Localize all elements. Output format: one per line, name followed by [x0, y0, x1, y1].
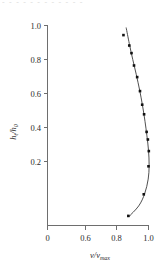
y-axis-title-den-sub: 0 — [13, 124, 19, 127]
x-axis-title-subscript: max — [100, 255, 110, 261]
y-tick-label-0.8: 0.8 — [30, 55, 41, 65]
y-tick-label-0.4: 0.4 — [30, 123, 41, 133]
data-point — [147, 138, 150, 141]
data-point — [122, 34, 125, 37]
axis-spines — [48, 25, 149, 226]
y-axis-title: ht/h0 — [8, 124, 19, 140]
data-point — [141, 103, 144, 106]
data-point — [145, 131, 148, 134]
velocity-profile-plot: 1.0 0.8 0.6 0.4 0.2 0 0.6 0.8 1.0 ht/h0 — [0, 0, 163, 270]
page-bleed-artifact: - - - - - - - - - - - - — [0, 0, 163, 7]
figure-canvas: - - - - - - - - - - - - 1.0 0.8 0.6 0.4 … — [0, 0, 163, 270]
svg-text:ht/h0: ht/h0 — [8, 124, 19, 140]
data-point — [130, 52, 133, 55]
x-axis-ticks — [48, 226, 149, 230]
bleed-text: - - - - - - - - - - - - — [2, 0, 84, 7]
x-axis-title: v/vmax — [90, 250, 110, 261]
data-point — [142, 193, 145, 196]
data-point — [127, 215, 130, 218]
y-axis-tick-labels: 1.0 0.8 0.6 0.4 0.2 — [30, 21, 41, 167]
data-point — [148, 150, 151, 153]
x-tick-label-0.6: 0.6 — [80, 233, 91, 243]
x-axis-tick-labels: 0 0.6 0.8 1.0 — [45, 233, 153, 243]
x-tick-label-0: 0 — [45, 233, 49, 243]
y-tick-label-0.2: 0.2 — [30, 157, 41, 167]
data-point — [139, 90, 142, 93]
y-tick-label-1.0: 1.0 — [30, 21, 41, 31]
y-axis-ticks — [44, 26, 48, 162]
x-tick-label-0.8: 0.8 — [111, 233, 122, 243]
x-tick-label-1.0: 1.0 — [143, 233, 154, 243]
data-point — [143, 113, 146, 116]
data-point — [133, 64, 136, 67]
fit-curve — [126, 28, 149, 218]
data-point — [147, 165, 150, 168]
data-point — [128, 44, 131, 47]
y-tick-label-0.6: 0.6 — [30, 89, 41, 99]
data-point — [136, 76, 139, 79]
